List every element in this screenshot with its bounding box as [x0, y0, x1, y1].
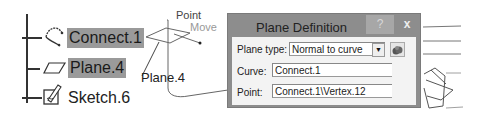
- tree-item-plane-4[interactable]: Plane.4: [68, 58, 126, 78]
- expand-connect-icon[interactable]: [22, 33, 32, 43]
- dropdown-picker-icon: [391, 44, 404, 57]
- background-geometry: [421, 18, 479, 114]
- viewer-point-label: Point: [176, 9, 201, 21]
- chevron-down-icon[interactable]: ▼: [372, 43, 385, 57]
- close-button[interactable]: x: [394, 15, 420, 34]
- tree-item-sketch-6[interactable]: Sketch.6: [66, 88, 132, 108]
- plane-type-select[interactable]: Normal to curve: [289, 42, 385, 56]
- curve-field[interactable]: Connect.1: [272, 63, 392, 77]
- tree-branch-line: [32, 97, 42, 99]
- connect-curve-icon: [42, 25, 66, 47]
- viewer-move-handle[interactable]: Move: [190, 21, 217, 33]
- tree-branch-line: [32, 37, 42, 39]
- plane-type-label: Plane type:: [237, 44, 287, 55]
- dialog-title: Plane Definition: [256, 20, 347, 35]
- plane-definition-dialog: Plane Definition ? x Plane type: Normal …: [227, 13, 421, 108]
- viewer-plane-label: Plane.4: [141, 70, 185, 85]
- help-button[interactable]: ?: [366, 15, 394, 34]
- point-field[interactable]: Connect.1\Vertex.12: [272, 84, 392, 98]
- plane-icon: [43, 61, 67, 75]
- tree-branch-line: [28, 68, 40, 70]
- dialog-body: Plane type: Normal to curve ▼ Curve: Con…: [232, 37, 416, 105]
- curve-label: Curve:: [237, 66, 266, 77]
- expand-sketch-icon[interactable]: [22, 93, 32, 103]
- sketch-icon: [42, 82, 64, 106]
- tree-trunk-line: [26, 14, 28, 100]
- plane-type-picker-button[interactable]: [390, 42, 405, 57]
- point-label: Point:: [237, 87, 263, 98]
